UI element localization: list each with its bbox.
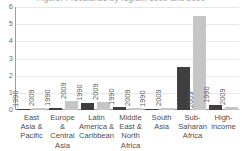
bar[interactable]: 1990 xyxy=(145,109,158,110)
x-category-label: MiddleEast &NorthAfrica xyxy=(115,113,146,150)
plot-area: 1990200919902009199020091990200919902009… xyxy=(16,7,239,110)
x-category-label-line: income xyxy=(209,122,238,131)
bar-year-label: 1990 xyxy=(139,90,147,107)
x-category-label-line: Africa xyxy=(116,141,145,150)
bar-year-label: 1990 xyxy=(12,90,20,107)
bar-year-label: 1990 xyxy=(44,90,52,107)
x-category-label-line: Africa xyxy=(178,131,207,140)
x-category-label-line: East xyxy=(17,113,46,122)
x-category-label-line: East & xyxy=(116,122,145,131)
x-axis-category-labels: EastAsia &PacificEurope &CentralAsiaLati… xyxy=(16,113,239,150)
x-category-label-line: Latin xyxy=(79,113,114,122)
bar-year-label: 2009 xyxy=(124,90,132,107)
x-category-label-line: Asia & xyxy=(17,122,46,131)
x-category-label: EastAsia &Pacific xyxy=(16,113,47,150)
bar-year-label: 2009 xyxy=(155,90,163,107)
x-category-label: LatinAmerica &Caribbean xyxy=(78,113,115,150)
x-category-label: Europe &CentralAsia xyxy=(47,113,78,150)
x-category-label-line: Sub- xyxy=(178,113,207,122)
x-category-label-line: High- xyxy=(209,113,238,122)
x-category-label-line: Pacific xyxy=(17,131,46,140)
x-category-label: SouthAsia xyxy=(146,113,177,150)
bar-year-label: 2009 xyxy=(187,91,195,108)
y-tick-label: 2 xyxy=(1,72,13,80)
bar[interactable]: 2009 xyxy=(129,108,142,110)
x-category-label-line: Asia xyxy=(48,141,77,150)
bar[interactable]: 1990 xyxy=(113,107,126,110)
y-tick-label: 4 xyxy=(1,37,13,45)
bar[interactable]: 1990 xyxy=(17,109,30,110)
bar-year-label: 2009 xyxy=(28,90,36,107)
bar-year-label: 1990 xyxy=(76,84,84,101)
bar[interactable]: 1990 xyxy=(209,105,222,110)
x-category-label-line: Asia xyxy=(147,122,176,131)
x-category-label-line: Saharan xyxy=(178,122,207,131)
bar[interactable]: 2009 xyxy=(65,101,78,110)
x-category-label-line: South xyxy=(147,113,176,122)
y-tick-label: 1 xyxy=(1,89,13,97)
x-category-label-line: North xyxy=(116,131,145,140)
x-category-label: High-income xyxy=(208,113,239,150)
bar[interactable]: 2009 xyxy=(161,108,174,110)
bar-year-label: 2009 xyxy=(92,84,100,101)
y-tick-label: 5 xyxy=(1,20,13,28)
bar-year-label: 2009 xyxy=(219,88,227,105)
y-tick-label: 0 xyxy=(1,106,13,114)
bar[interactable]: 2009 xyxy=(225,107,238,110)
bar-year-label: 2009 xyxy=(60,82,68,99)
bar-year-label: 1990 xyxy=(171,91,179,108)
y-tick-label: 6 xyxy=(1,3,13,11)
bar-year-label: 1990 xyxy=(203,86,211,103)
bar-year-label: 1990 xyxy=(108,89,116,106)
y-tick-label: 3 xyxy=(1,55,13,63)
x-category-label: Sub-SaharanAfrica xyxy=(177,113,208,150)
x-category-label-line: Middle xyxy=(116,113,145,122)
bar-chart: Figure: Prevalence by region, 1990 and 2… xyxy=(0,0,242,151)
x-category-label-line: Central xyxy=(48,131,77,140)
x-category-label-line: Europe & xyxy=(48,113,77,131)
x-category-label-line: America & xyxy=(79,122,114,131)
bar-groups: 1990200919902009199020091990200919902009… xyxy=(16,7,239,110)
chart-title: Figure: Prevalence by region, 1990 and 2… xyxy=(0,0,242,3)
bar-group: 19902009 xyxy=(207,7,239,110)
x-category-label-line: Caribbean xyxy=(79,131,114,140)
bar[interactable]: 1990 xyxy=(49,108,62,110)
bar-slot: 2009 xyxy=(225,7,238,110)
bar[interactable]: 1990 xyxy=(81,103,94,110)
bar[interactable]: 2009 xyxy=(33,108,46,110)
